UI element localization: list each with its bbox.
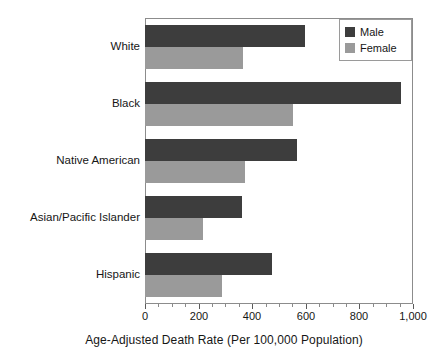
category-label-white: White [0, 40, 140, 52]
x-tick-label-800: 800 [350, 310, 368, 322]
bar-male-white [145, 25, 305, 47]
x-tick-minor-100 [172, 304, 173, 307]
x-tick-major-1000 [413, 304, 414, 309]
category-label-asian-pacific-islander: Asian/Pacific Islander [0, 211, 140, 223]
x-tick-minor-300 [225, 304, 226, 307]
x-tick-minor-450 [266, 304, 267, 307]
x-tick-minor-700 [333, 304, 334, 307]
x-tick-minor-950 [400, 304, 401, 307]
x-tick-minor-750 [346, 304, 347, 307]
legend-label-female: Female [360, 43, 397, 54]
legend: Male Female [339, 19, 412, 61]
x-tick-minor-150 [185, 304, 186, 307]
bar-male-asian-pacific-islander [145, 196, 242, 218]
x-tick-minor-50 [158, 304, 159, 307]
x-tick-label-0: 0 [142, 310, 148, 322]
bar-female-hispanic [145, 275, 222, 297]
x-tick-minor-650 [319, 304, 320, 307]
bar-male-hispanic [145, 253, 272, 275]
x-tick-major-600 [306, 304, 307, 309]
x-tick-major-800 [359, 304, 360, 309]
bar-female-white [145, 47, 243, 69]
bar-chart: White Black Native American Asian/Pacifi… [0, 0, 448, 362]
x-tick-label-400: 400 [243, 310, 261, 322]
bar-male-black [145, 82, 401, 104]
legend-item-female: Female [345, 40, 406, 56]
x-tick-minor-850 [373, 304, 374, 307]
x-tick-minor-550 [292, 304, 293, 307]
x-tick-major-0 [145, 304, 146, 309]
x-tick-minor-350 [239, 304, 240, 307]
x-tick-label-1000: 1,000 [399, 310, 427, 322]
legend-item-male: Male [345, 24, 406, 40]
bar-female-native-american [145, 161, 245, 183]
x-tick-minor-250 [212, 304, 213, 307]
male-swatch-icon [345, 27, 355, 37]
x-tick-minor-900 [386, 304, 387, 307]
bar-male-native-american [145, 139, 297, 161]
x-tick-label-600: 600 [297, 310, 315, 322]
female-swatch-icon [345, 43, 355, 53]
category-label-hispanic: Hispanic [0, 268, 140, 280]
bar-female-black [145, 104, 293, 126]
x-tick-label-200: 200 [190, 310, 208, 322]
category-label-black: Black [0, 97, 140, 109]
bar-female-asian-pacific-islander [145, 218, 203, 240]
legend-label-male: Male [360, 27, 384, 38]
x-tick-major-400 [252, 304, 253, 309]
x-axis-title: Age-Adjusted Death Rate (Per 100,000 Pop… [0, 333, 448, 347]
x-tick-minor-500 [279, 304, 280, 307]
x-tick-major-200 [199, 304, 200, 309]
category-label-native-american: Native American [0, 154, 140, 166]
